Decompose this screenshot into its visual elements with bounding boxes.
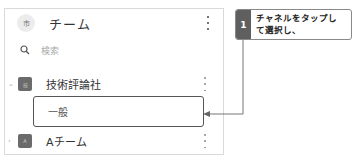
- step-instruction-line: チャネルをタップし: [256, 12, 337, 24]
- step-callout: 1 チャネルをタップし て選択し、: [235, 9, 352, 40]
- step-instruction: チャネルをタップし て選択し、: [251, 10, 337, 39]
- step-instruction-line: て選択し、: [256, 24, 337, 36]
- step-number-badge: 1: [236, 10, 251, 39]
